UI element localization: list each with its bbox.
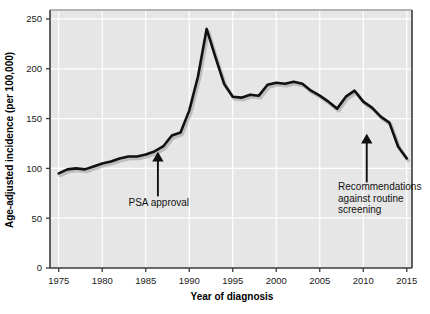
x-tick-label: 1990 <box>179 275 200 286</box>
y-tick-label: 150 <box>26 113 42 124</box>
y-tick-label: 50 <box>31 213 42 224</box>
y-tick-label: 250 <box>26 13 42 24</box>
y-tick-label: 100 <box>26 163 42 174</box>
annotation-label-screening-recommendations-line-3: screening <box>338 204 381 215</box>
x-tick-label: 1980 <box>92 275 113 286</box>
chart-figure: 050100150200250 197519801985199019952000… <box>0 0 430 314</box>
x-tick-label: 1995 <box>222 275 243 286</box>
x-axis-title: Year of diagnosis <box>191 291 274 302</box>
x-tick-label: 2015 <box>396 275 417 286</box>
x-tick-label: 2000 <box>266 275 287 286</box>
annotation-label-screening-recommendations-line-1: Recommendations <box>338 181 421 192</box>
incidence-line-chart: 050100150200250 197519801985199019952000… <box>0 0 430 314</box>
x-tick-label: 2010 <box>353 275 374 286</box>
annotation-label-screening-recommendations-line-2: against routine <box>338 193 404 204</box>
x-tick-label: 1975 <box>48 275 69 286</box>
plot-area-background <box>50 11 412 268</box>
y-tick-label: 0 <box>37 262 42 273</box>
y-tick-label: 200 <box>26 63 42 74</box>
x-tick-label: 2005 <box>309 275 330 286</box>
x-tick-label: 1985 <box>135 275 156 286</box>
y-axis-title: Age-adjusted incidence (per 100,000) <box>4 52 15 228</box>
annotation-label-psa-approval-line-1: PSA approval <box>128 197 189 208</box>
